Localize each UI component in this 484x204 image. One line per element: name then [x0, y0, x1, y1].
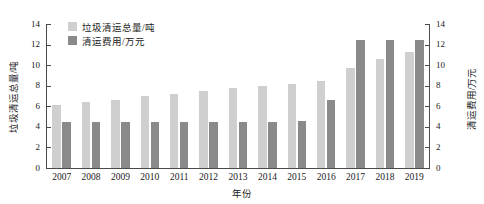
y-tick-label-right: 12 [436, 40, 476, 49]
bar-transport-cost [415, 40, 424, 168]
bar-total-waste [141, 96, 150, 168]
y-tick-label-left: 8 [0, 81, 40, 90]
bar-transport-cost [298, 121, 307, 168]
bar-transport-cost [121, 122, 130, 168]
bar-transport-cost [151, 122, 160, 168]
bar-total-waste [376, 59, 385, 168]
bar-transport-cost [239, 122, 248, 168]
y-tick-label-left: 4 [0, 122, 40, 131]
bar-transport-cost [209, 122, 218, 168]
bar-group [194, 24, 223, 168]
bar-transport-cost [92, 122, 101, 168]
bar-group [106, 24, 135, 168]
bar-series-container [47, 24, 429, 169]
plot-area: 02468101214 02468101214 [46, 24, 430, 169]
y-tick-label-right: 14 [436, 20, 476, 29]
bar-group [76, 24, 105, 168]
bar-group [135, 24, 164, 168]
y-axis-right-line [429, 24, 430, 169]
y-tick-label-right: 4 [436, 122, 476, 131]
bar-transport-cost [327, 100, 336, 168]
bar-group [253, 24, 282, 168]
y-tick-label-left: 12 [0, 40, 40, 49]
bar-total-waste [317, 81, 326, 168]
bar-transport-cost [62, 122, 71, 168]
bar-group [341, 24, 370, 168]
bar-transport-cost [180, 122, 189, 168]
bar-total-waste [258, 86, 267, 168]
y-tick-label-left: 0 [0, 164, 40, 173]
bar-total-waste [199, 91, 208, 168]
bar-total-waste [288, 84, 297, 168]
y-tick-label-right: 8 [436, 81, 476, 90]
bar-total-waste [170, 94, 179, 168]
y-tick-label-left: 10 [0, 61, 40, 70]
bar-group [400, 24, 429, 168]
y-tick-label-right: 10 [436, 61, 476, 70]
bar-total-waste [111, 100, 120, 168]
bar-transport-cost [356, 40, 365, 168]
y-tick-label-right: 0 [436, 164, 476, 173]
y-tick-label-left: 2 [0, 143, 40, 152]
bar-total-waste [346, 68, 355, 168]
bar-total-waste [52, 105, 61, 168]
bar-group [47, 24, 76, 168]
y-tick-label-left: 6 [0, 102, 40, 111]
y-axis-right-title: 清运费用/万元 [464, 39, 478, 159]
bar-total-waste [82, 102, 91, 168]
bar-total-waste [229, 88, 238, 168]
bar-group [311, 24, 340, 168]
y-tick-label-right: 2 [436, 143, 476, 152]
bar-group [223, 24, 252, 168]
bar-chart: 垃圾清运总量/吨 清运费用/万元 年份 垃圾清运总量/吨 清运费用/万元 024… [0, 0, 484, 204]
bar-total-waste [405, 52, 414, 168]
bar-group [282, 24, 311, 168]
x-axis-title: 年份 [0, 186, 484, 200]
bar-group [370, 24, 399, 168]
bar-transport-cost [268, 122, 277, 168]
bar-transport-cost [386, 40, 395, 168]
x-tick-label: 2019 [394, 172, 434, 183]
y-axis-left-title: 垃圾清运总量/吨 [6, 37, 20, 157]
y-tick-label-right: 6 [436, 102, 476, 111]
bar-group [165, 24, 194, 168]
y-tick-label-left: 14 [0, 20, 40, 29]
